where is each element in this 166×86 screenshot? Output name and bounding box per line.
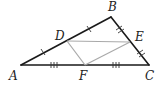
midsegment-fd [67, 41, 85, 65]
label-c: C [145, 69, 154, 83]
label-d: D [54, 29, 65, 43]
label-e: E [134, 30, 144, 44]
label-f: F [78, 69, 88, 83]
midsegment-ef [85, 42, 130, 65]
triangle-diagram: A B C D E F [0, 0, 166, 86]
label-b: B [107, 0, 117, 14]
midsegment-de [67, 41, 130, 42]
label-a: A [8, 69, 18, 83]
